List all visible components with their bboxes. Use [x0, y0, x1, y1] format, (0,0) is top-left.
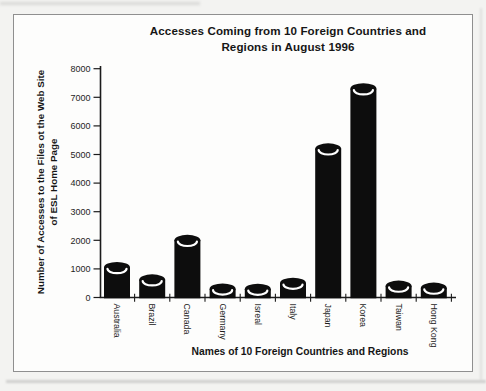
y-tick-label: 7000: [70, 93, 90, 103]
category-label-canada: Canada: [182, 304, 192, 335]
category-label-brazil: Brazil: [147, 304, 157, 326]
y-tick-label: 0: [85, 293, 90, 303]
y-tick-label: 1000: [70, 264, 90, 274]
category-label-isreal: Isreal: [253, 304, 263, 326]
y-tick-label: 3000: [70, 207, 90, 217]
y-tick-label: 4000: [70, 178, 90, 188]
chart-title-line1: Accesses Coming from 10 Foreign Countrie…: [108, 23, 468, 39]
category-label-japan: Japan: [323, 304, 333, 328]
y-axis-title-line1: Number of Accesses to the Files ot the W…: [35, 52, 48, 312]
category-label-italy: Italy: [288, 304, 298, 321]
bar-body-canada: [174, 240, 200, 298]
chart-title: Accesses Coming from 10 Foreign Countrie…: [108, 23, 468, 54]
y-tick-label: 6000: [70, 121, 90, 131]
scan-shadow-bottom: [6, 380, 486, 383]
category-label-hong-kong: Hong Kong: [429, 304, 439, 348]
chart-title-line2: Regions in August 1996: [108, 39, 468, 55]
y-tick-label: 2000: [70, 236, 90, 246]
category-label-australia: Australia: [112, 304, 122, 338]
bar-body-japan: [315, 149, 341, 299]
y-axis-title-line2: of ESL Home Page: [48, 52, 61, 312]
y-tick-label: 8000: [70, 64, 90, 74]
scan-artifact-top: [0, 2, 200, 5]
category-label-taiwan: Taiwan: [394, 304, 404, 331]
scanned-figure-page: Accesses Coming from 10 Foreign Countrie…: [0, 0, 486, 391]
x-axis-title: Names of 10 Foreign Countries and Region…: [150, 346, 450, 357]
y-tick-label: 5000: [70, 150, 90, 160]
category-label-germany: Germany: [218, 304, 228, 341]
category-label-korea: Korea: [358, 304, 368, 328]
bar-chart-plot: 010002000300040005000600070008000Austral…: [0, 0, 486, 391]
scan-shadow-right: [480, 8, 482, 380]
bar-body-korea: [350, 89, 376, 299]
y-axis-title: Number of Accesses to the Files ot the W…: [35, 52, 61, 312]
